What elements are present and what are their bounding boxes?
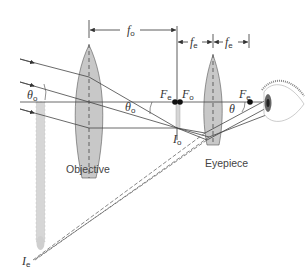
label-f-objective: fo xyxy=(127,24,135,38)
label-eyepiece: Eyepiece xyxy=(205,158,248,169)
label-objective: Objective xyxy=(66,164,110,175)
label-angle-theta-o-left: θo xyxy=(27,89,37,103)
label-focal-fe-left: Fe xyxy=(160,88,172,102)
label-angle-theta: θ xyxy=(229,103,235,115)
focal-point-fe-left xyxy=(172,99,178,105)
eye-icon xyxy=(262,81,304,122)
label-f-eyepiece-right: fe xyxy=(225,36,233,50)
label-focal-fe-right: Fe xyxy=(239,88,251,102)
label-focal-fo: Fo xyxy=(182,88,194,102)
label-image-io: Io xyxy=(173,133,181,147)
label-angle-theta-o-mid: θo xyxy=(125,101,135,115)
label-f-eyepiece-left: fe xyxy=(190,36,198,50)
label-image-ie: Ie xyxy=(22,255,30,269)
telescope-diagram xyxy=(0,0,306,275)
final-image-bar xyxy=(36,102,45,242)
intermediate-image-bar xyxy=(176,103,180,129)
